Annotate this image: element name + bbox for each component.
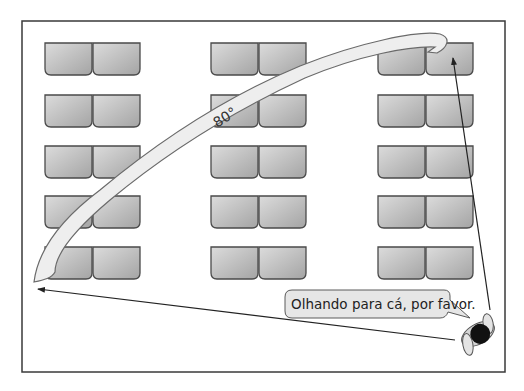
desk-pair (211, 146, 306, 178)
desk-pair (378, 247, 473, 279)
classroom-diagram: 80° Olhando para cá, por favor. (0, 0, 524, 391)
desk-pair (45, 43, 140, 75)
desk-pair (378, 146, 473, 178)
desk-pair (45, 95, 140, 127)
speech-bubble-text: Olhando para cá, por favor. (291, 296, 476, 312)
desk-pair (211, 196, 306, 228)
speech-bubble: Olhando para cá, por favor. (285, 290, 476, 318)
desk-pair (211, 247, 306, 279)
desk-pair (378, 196, 473, 228)
